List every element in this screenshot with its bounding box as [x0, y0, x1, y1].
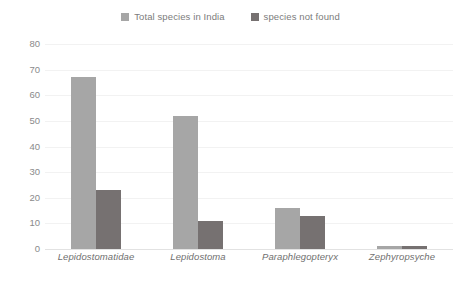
x-axis-category-label: Zephyropsyche — [351, 252, 453, 262]
x-axis-category-labels: LepidostomatidaeLepidostomaParaphlegopte… — [45, 252, 453, 262]
y-axis-tick-label: 30 — [29, 167, 40, 177]
legend-swatch-icon — [121, 13, 129, 21]
legend-entry-total-species-in-india[interactable]: Total species in India — [121, 12, 224, 22]
y-axis-tick-label: 50 — [29, 116, 40, 126]
axis-baseline — [45, 249, 453, 250]
y-axis-tick-label: 20 — [29, 193, 40, 203]
bar[interactable] — [96, 190, 121, 249]
y-axis-tick-label: 60 — [29, 91, 40, 101]
y-axis-tick-label: 0 — [35, 244, 40, 254]
bar[interactable] — [275, 208, 300, 249]
x-axis-category-label: Lepidostoma — [147, 252, 249, 262]
bar[interactable] — [377, 246, 402, 249]
x-axis-category-label: Lepidostomatidae — [45, 252, 147, 262]
bar-groups — [45, 44, 453, 249]
bar-group — [147, 44, 249, 249]
y-axis-tick-labels: 01020304050607080 — [0, 44, 40, 249]
legend-swatch-icon — [251, 13, 259, 21]
x-axis-category-label: Paraphlegopteryx — [249, 252, 351, 262]
bar-group — [351, 44, 453, 249]
legend-label: Total species in India — [134, 12, 224, 22]
legend-entry-species-not-found[interactable]: species not found — [251, 12, 340, 22]
legend-label: species not found — [264, 12, 340, 22]
bar-group — [45, 44, 147, 249]
bar[interactable] — [402, 246, 427, 249]
bar[interactable] — [198, 221, 223, 249]
bar-group — [249, 44, 351, 249]
plot-area — [45, 44, 453, 249]
y-axis-tick-label: 70 — [29, 65, 40, 75]
bar[interactable] — [71, 77, 96, 249]
chart-legend: Total species in India species not found — [0, 12, 461, 22]
bar-chart: Total species in India species not found… — [0, 0, 461, 282]
bar[interactable] — [173, 116, 198, 249]
y-axis-tick-label: 10 — [29, 219, 40, 229]
y-axis-tick-label: 80 — [29, 39, 40, 49]
bar[interactable] — [300, 216, 325, 249]
y-axis-tick-label: 40 — [29, 142, 40, 152]
